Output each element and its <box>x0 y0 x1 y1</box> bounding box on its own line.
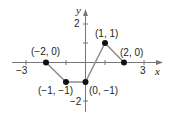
point-label-0-neg1: (0, −1) <box>89 86 118 96</box>
y-tick-label-2: 2 <box>74 19 80 29</box>
point-1-1 <box>102 40 108 46</box>
point-neg2-0 <box>43 60 49 66</box>
point-label-2-0: (2, 0) <box>120 48 143 58</box>
point-label-neg1-neg1: (−1, −1) <box>38 86 73 96</box>
x-tick-label-neg3: −3 <box>16 66 27 76</box>
y-tick-label-neg2: −2 <box>70 97 81 107</box>
y-axis-label: y <box>76 5 81 15</box>
y-axis-arrow-icon <box>83 9 88 16</box>
x-tick-label-3: 3 <box>140 66 146 76</box>
x-axis-label: x <box>155 66 160 76</box>
coordinate-plane <box>0 0 172 117</box>
point-0-neg1 <box>83 79 89 85</box>
point-2-0 <box>121 60 127 66</box>
point-label-neg2-0: (−2, 0) <box>31 47 60 57</box>
point-label-1-1: (1, 1) <box>95 29 118 39</box>
